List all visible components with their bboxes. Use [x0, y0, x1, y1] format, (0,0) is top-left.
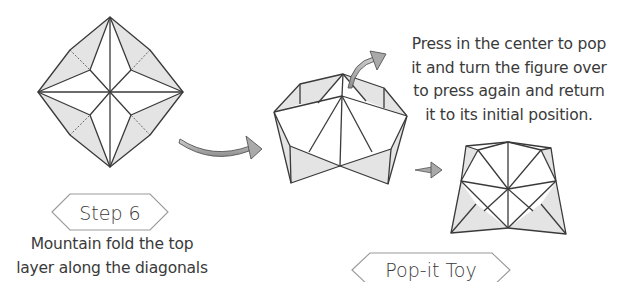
- result-label: Pop-it Toy: [385, 259, 476, 281]
- step-instruction: Mountain fold the top layer along the di…: [0, 233, 224, 280]
- step-instruction-line: Mountain fold the top: [0, 233, 224, 257]
- pop-it-popped-view: [274, 74, 407, 184]
- step-to-result-arrow: [179, 136, 262, 159]
- pop-instruction: Press in the center to pop it and turn t…: [396, 33, 620, 127]
- step-label-tag: Step 6: [52, 194, 168, 230]
- press-arrow: [415, 162, 442, 178]
- pop-instruction-line: to press again and return: [396, 80, 620, 104]
- pop-instruction-line: it to its initial position.: [396, 104, 620, 128]
- result-label-tag: Pop-it Toy: [352, 253, 510, 282]
- pop-instruction-line: it and turn the figure over: [396, 57, 620, 81]
- step-instruction-line: layer along the diagonals: [0, 257, 224, 281]
- pop-it-flat-view: [451, 142, 566, 234]
- pop-instruction-line: Press in the center to pop: [396, 33, 620, 57]
- step-6-diagram: [38, 17, 183, 167]
- step-label: Step 6: [79, 202, 140, 224]
